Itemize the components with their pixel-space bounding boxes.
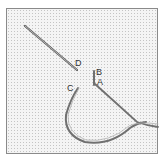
label-b: B	[96, 68, 102, 77]
label-d: D	[75, 59, 82, 68]
label-c: C	[67, 84, 74, 93]
stitch-illustration	[0, 0, 162, 158]
needle-icon	[25, 26, 77, 70]
label-a: A	[97, 78, 103, 87]
thread	[66, 71, 158, 143]
